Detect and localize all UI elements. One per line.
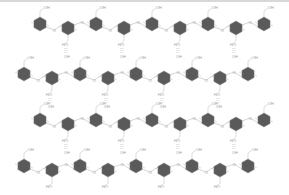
- hydroxyl-label: HO: [118, 42, 124, 47]
- hydroxyl-label: OH: [28, 55, 34, 60]
- glucose-ring: [186, 159, 198, 173]
- hydroxyl-label: OH: [100, 101, 106, 106]
- oxygen-label: O: [149, 170, 152, 175]
- glucose-ring: [242, 67, 254, 81]
- oxygen-label: O: [193, 20, 196, 25]
- hydroxyl-label: OH: [196, 55, 202, 60]
- oxygen-label: O: [205, 170, 208, 175]
- hydroxyl-label: HO: [158, 92, 164, 97]
- glucose-ring: [186, 67, 198, 81]
- glucose-ring: [102, 71, 114, 85]
- hydroxyl-label: OH: [232, 54, 238, 59]
- hydroxyl-label: HO: [214, 92, 220, 97]
- glucose-ring: [130, 159, 142, 173]
- oxygen-label: O: [177, 162, 180, 167]
- hydroxyl-label: OH: [84, 147, 90, 152]
- oxygen-label: O: [93, 170, 96, 175]
- hydroxyl-label: OH: [120, 150, 126, 155]
- glucose-ring: [34, 113, 46, 127]
- oxygen-label: O: [137, 20, 140, 25]
- cellulose-chain-4: [15, 150, 257, 186]
- oxygen-label: O: [121, 162, 124, 167]
- oxygen-label: O: [37, 78, 40, 83]
- glucose-ring: [230, 117, 242, 131]
- oxygen-label: O: [193, 116, 196, 121]
- hydroxyl-label: HO: [46, 184, 52, 189]
- oxygen-label: O: [109, 28, 112, 33]
- cellulose-chain-1: [31, 8, 273, 54]
- hydroxyl-label: OH: [176, 54, 182, 59]
- glucose-ring: [230, 21, 242, 35]
- hydroxyl-label: HO: [102, 184, 108, 189]
- oxygen-label: O: [249, 116, 252, 121]
- hydroxyl-label: HO: [174, 42, 180, 47]
- oxygen-label: O: [53, 28, 56, 33]
- hydroxyl-label: HO: [214, 184, 220, 189]
- glucose-ring: [242, 159, 254, 173]
- hydroxyl-label: OH: [140, 147, 146, 152]
- oxygen-label: O: [165, 124, 168, 129]
- hydroxyl-label: HO: [230, 42, 236, 47]
- oxygen-label: O: [177, 70, 180, 75]
- glucose-ring: [202, 113, 214, 127]
- oxygen-label: O: [149, 78, 152, 83]
- hydroxyl-label: HO: [230, 138, 236, 143]
- hydroxyl-label: OH: [268, 101, 274, 106]
- glucose-ring: [158, 71, 170, 85]
- oxygen-label: O: [81, 116, 84, 121]
- hydroxyl-label: OH: [64, 54, 70, 59]
- glucose-ring: [158, 163, 170, 177]
- glucose-ring: [214, 71, 226, 85]
- glucose-ring: [34, 17, 46, 31]
- oxygen-label: O: [37, 170, 40, 175]
- oxygen-label: O: [233, 162, 236, 167]
- hydroxyl-label: OH: [100, 5, 106, 10]
- hydroxyl-label: OH: [252, 147, 258, 152]
- hydroxyl-label: OH: [44, 101, 50, 106]
- glucose-ring: [90, 17, 102, 31]
- oxygen-label: O: [81, 20, 84, 25]
- glucose-ring: [46, 71, 58, 85]
- hydroxyl-label: OH: [212, 101, 218, 106]
- hydroxyl-label: OH: [84, 55, 90, 60]
- glucose-ring: [118, 117, 130, 131]
- hydroxyl-label: OH: [212, 5, 218, 10]
- hydroxyl-label: HO: [46, 92, 52, 97]
- hydroxyl-label: OH: [252, 55, 258, 60]
- cellulose-chain-2: [15, 58, 257, 104]
- glucose-ring: [146, 17, 158, 31]
- glucose-ring: [130, 67, 142, 81]
- hydroxyl-label: HO: [62, 138, 68, 143]
- glucose-ring: [18, 159, 30, 173]
- hydroxyl-label: HO: [158, 184, 164, 189]
- hydroxyl-label: OH: [120, 54, 126, 59]
- glucose-ring: [90, 113, 102, 127]
- hydroxyl-label: HO: [118, 138, 124, 143]
- glucose-ring: [62, 117, 74, 131]
- hydroxyl-label: OH: [44, 5, 50, 10]
- hydroxyl-label: OH: [156, 5, 162, 10]
- oxygen-label: O: [93, 78, 96, 83]
- oxygen-label: O: [53, 124, 56, 129]
- hydroxyl-label: OH: [196, 147, 202, 152]
- glucose-ring: [74, 67, 86, 81]
- glucose-ring: [174, 117, 186, 131]
- glucose-ring: [258, 113, 270, 127]
- glucose-ring: [258, 17, 270, 31]
- oxygen-label: O: [205, 78, 208, 83]
- hydroxyl-label: OH: [140, 55, 146, 60]
- cellulose-diagram: OOHOHOOHOOHOHOOHOOHOHOOHOOHOHOOHOHOOHOHO…: [0, 0, 289, 195]
- oxygen-label: O: [221, 124, 224, 129]
- oxygen-label: O: [121, 70, 124, 75]
- hydroxyl-label: OH: [268, 5, 274, 10]
- oxygen-label: O: [109, 124, 112, 129]
- glucose-ring: [202, 17, 214, 31]
- hydroxyl-label: HO: [62, 42, 68, 47]
- glucose-ring: [46, 163, 58, 177]
- oxygen-label: O: [249, 20, 252, 25]
- hydroxyl-label: OH: [64, 150, 70, 155]
- hydroxyl-label: HO: [102, 92, 108, 97]
- hydroxyl-label: HO: [174, 138, 180, 143]
- glucose-ring: [174, 21, 186, 35]
- oxygen-label: O: [221, 28, 224, 33]
